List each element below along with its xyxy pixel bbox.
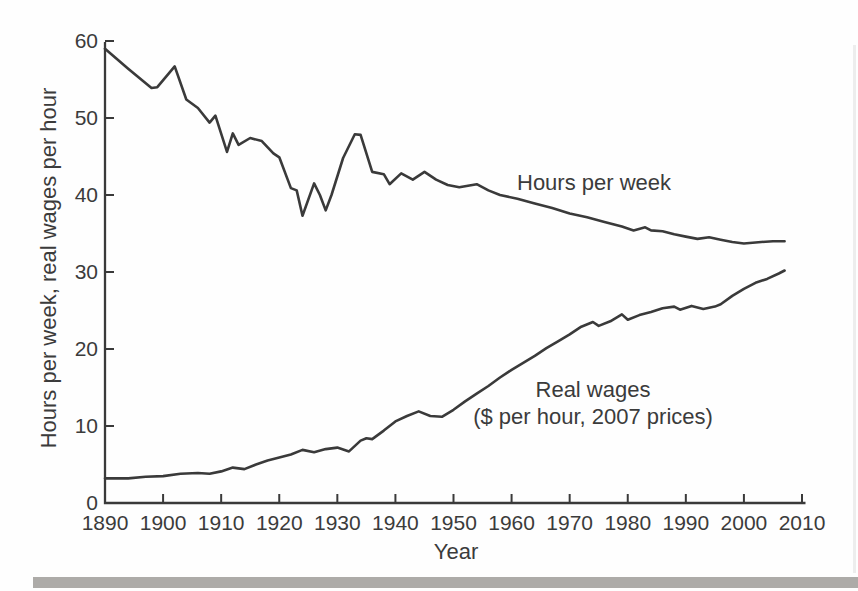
y-tick-label: 30: [52, 261, 98, 283]
hours-series-label: Hours per week: [517, 170, 671, 196]
y-tick-label: 20: [52, 338, 98, 360]
y-tick-label: 40: [52, 184, 98, 206]
bottom-divider-bar: [33, 577, 858, 588]
figure: Hours per week, real wages per hour Year…: [0, 0, 858, 591]
chart-canvas: [0, 0, 858, 591]
y-tick-label: 50: [52, 107, 98, 129]
wages-series-label-line2: ($ per hour, 2007 prices): [443, 403, 743, 430]
x-tick-label: 2010: [768, 512, 836, 534]
page-edge-artifact: [853, 45, 856, 573]
x-axis-title: Year: [434, 539, 478, 565]
y-tick-label: 10: [52, 415, 98, 437]
wages-series-label-line1: Real wages: [443, 376, 743, 403]
y-tick-label: 60: [52, 30, 98, 52]
wages-series-label: Real wages ($ per hour, 2007 prices): [443, 376, 743, 430]
